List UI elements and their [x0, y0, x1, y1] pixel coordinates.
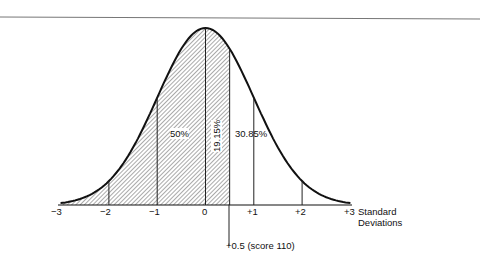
- label-19-15: 19.15%: [211, 120, 222, 152]
- tick-plus-1: +1: [247, 206, 258, 217]
- shaded-area: [61, 28, 230, 205]
- label-30-85: 30.85%: [235, 128, 267, 139]
- tick-0: 0: [202, 206, 207, 217]
- marker-label: +0.5 (score 110): [226, 240, 295, 251]
- tick-plus-3: +3: [344, 206, 355, 217]
- tick-minus-3: −3: [51, 206, 62, 217]
- top-rule: [0, 17, 480, 19]
- axis-label-deviations: Deviations: [358, 217, 402, 228]
- label-50: 50%: [170, 128, 189, 139]
- axis-label-standard: Standard: [358, 206, 397, 217]
- tick-plus-2: +2: [295, 206, 306, 217]
- tick-minus-1: −1: [149, 206, 160, 217]
- tick-minus-2: −2: [100, 206, 111, 217]
